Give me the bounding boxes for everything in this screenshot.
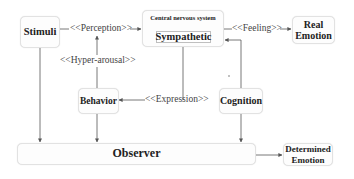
real-emotion-node: Real Emotion	[292, 16, 335, 44]
stimuli-node: Stimuli	[20, 16, 60, 48]
determined-emotion-node: Determined Emotion	[283, 143, 333, 166]
perception-label: <<Perception>>	[70, 23, 132, 33]
expression-label: <<Expression>>	[145, 94, 209, 104]
behavior-label: Behavior	[80, 96, 117, 107]
observer-node: Observer	[17, 143, 256, 165]
stimuli-label: Stimuli	[24, 26, 57, 38]
cognition-label: Cognition	[220, 95, 262, 107]
cns-node: Central nervous system Sympathetic	[142, 10, 224, 47]
sympathetic-label: Sympathetic	[156, 31, 212, 43]
behavior-node: Behavior	[78, 88, 119, 114]
determined-emotion-line1: Determined	[285, 144, 330, 154]
sympathetic-node: Sympathetic	[156, 31, 211, 43]
real-emotion-line2: Emotion	[295, 30, 332, 42]
observer-label: Observer	[113, 147, 161, 161]
feeling-label: <<Feeling>>	[232, 23, 282, 33]
hyper-arousal-label: <<Hyper-arousal>>	[60, 55, 136, 65]
determined-emotion-line2: Emotion	[291, 155, 324, 165]
cns-title: Central nervous system	[143, 14, 223, 21]
real-emotion-line1: Real	[304, 19, 323, 31]
cognition-node: Cognition	[219, 88, 263, 114]
